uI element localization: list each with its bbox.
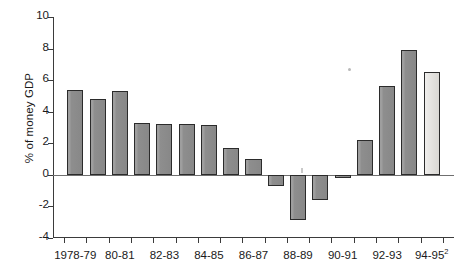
bar bbox=[156, 124, 172, 175]
x-axis-tick-mark bbox=[242, 238, 243, 243]
bar bbox=[379, 86, 395, 174]
scan-speck-icon bbox=[301, 168, 303, 173]
y-axis-tick-label: 8 bbox=[23, 41, 49, 53]
bar bbox=[335, 175, 351, 178]
x-axis-tick-mark bbox=[220, 238, 221, 243]
x-axis-tick-mark bbox=[331, 238, 332, 243]
bar bbox=[424, 72, 440, 175]
x-axis-tick-mark bbox=[198, 238, 199, 243]
x-axis-tick-mark bbox=[153, 238, 154, 243]
x-axis-tick-label: 92-93 bbox=[372, 249, 401, 261]
bar bbox=[401, 50, 417, 175]
bar bbox=[357, 140, 373, 175]
y-axis-tick-label: -4 bbox=[23, 230, 49, 242]
x-axis-tick-mark bbox=[443, 238, 444, 243]
x-axis-tick-mark bbox=[176, 238, 177, 243]
bar bbox=[268, 175, 284, 186]
y-axis-tick-label: 4 bbox=[23, 104, 49, 116]
x-axis-tick-mark bbox=[354, 238, 355, 243]
y-axis-tick-label: 6 bbox=[23, 72, 49, 84]
x-axis-tick-mark bbox=[287, 238, 288, 243]
bar bbox=[312, 175, 328, 200]
bar-chart: % of money GDP -4-20246810 1978-7980-818… bbox=[0, 0, 465, 269]
bar bbox=[179, 124, 195, 175]
x-axis-tick-mark bbox=[86, 238, 87, 243]
x-axis-tick-mark bbox=[109, 238, 110, 243]
x-axis-tick-label: 84-85 bbox=[194, 249, 223, 261]
y-axis-tick-label: 10 bbox=[23, 9, 49, 21]
bar bbox=[201, 125, 217, 175]
x-axis-tick-label: 1978-79 bbox=[54, 249, 96, 261]
x-axis-tick-mark bbox=[309, 238, 310, 243]
x-axis-tick-mark bbox=[64, 238, 65, 243]
x-axis-tick-mark bbox=[421, 238, 422, 243]
x-axis-tick-mark bbox=[376, 238, 377, 243]
x-axis-tick-mark bbox=[265, 238, 266, 243]
x-axis-line bbox=[53, 237, 454, 238]
zero-baseline bbox=[53, 175, 454, 176]
bar bbox=[90, 99, 106, 175]
x-axis-tick-mark bbox=[398, 238, 399, 243]
bar bbox=[134, 123, 150, 175]
x-axis-tick-label: 82-83 bbox=[150, 249, 179, 261]
bar bbox=[112, 91, 128, 175]
y-axis-line bbox=[53, 17, 54, 238]
bar bbox=[67, 90, 83, 174]
x-axis-tick-label: 94-952 bbox=[415, 249, 449, 261]
y-axis-tick-label: 2 bbox=[23, 135, 49, 147]
x-axis-tick-label: 88-89 bbox=[283, 249, 312, 261]
bar bbox=[223, 148, 239, 175]
y-axis-tick-label: -2 bbox=[23, 198, 49, 210]
bar bbox=[245, 159, 261, 175]
scan-speck-icon bbox=[348, 68, 351, 71]
x-axis-tick-label: 86-87 bbox=[239, 249, 268, 261]
x-axis-tick-label: 90-91 bbox=[328, 249, 357, 261]
y-axis-tick-label: 0 bbox=[23, 167, 49, 179]
x-axis-tick-mark bbox=[131, 238, 132, 243]
x-axis-tick-label: 80-81 bbox=[105, 249, 134, 261]
bar bbox=[290, 175, 306, 220]
plot-area: -4-20246810 1978-7980-8182-8384-8586-878… bbox=[53, 17, 454, 238]
